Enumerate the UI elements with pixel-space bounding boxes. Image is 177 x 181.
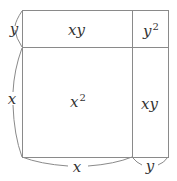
side-label-left-x: x <box>8 92 16 107</box>
region-bottom-left-label: x2 <box>70 93 86 110</box>
region-top-left-label: xy <box>68 21 86 38</box>
side-label-bottom-x: x <box>73 160 81 175</box>
region-top-right-label: y2 <box>143 22 159 39</box>
side-label-bottom-y: y <box>146 159 154 174</box>
region-bottom-right-label: xy <box>141 95 159 112</box>
side-label-left-y: y <box>10 22 18 37</box>
